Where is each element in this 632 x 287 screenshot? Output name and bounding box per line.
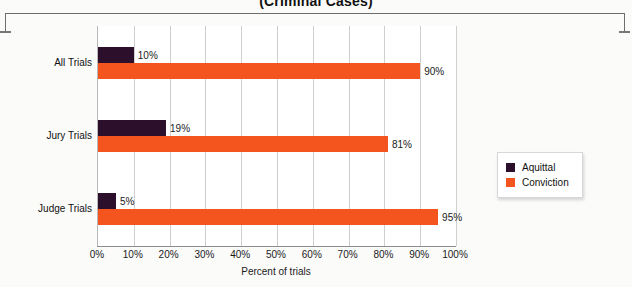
x-tick-label: 0% bbox=[90, 249, 104, 260]
legend-item-conviction[interactable]: Conviction bbox=[506, 175, 576, 190]
x-tick-label: 80% bbox=[373, 249, 393, 260]
legend-item-aquittal[interactable]: Aquittal bbox=[506, 160, 576, 175]
chart-title: (Criminal Cases) bbox=[0, 0, 632, 9]
plot-area: 10%90%19%81%5%95% bbox=[97, 26, 456, 246]
bar-value-label: 10% bbox=[138, 49, 158, 60]
bar-value-label: 81% bbox=[392, 139, 412, 150]
category-label-jury-trials: Jury Trials bbox=[4, 130, 92, 141]
legend-label: Conviction bbox=[522, 177, 569, 188]
x-tick-label: 20% bbox=[159, 249, 179, 260]
x-tick-label: 90% bbox=[409, 249, 429, 260]
x-tick-label: 100% bbox=[442, 249, 468, 260]
bar-aquittal-jury-trials bbox=[98, 120, 166, 136]
page-bracket-right-foot bbox=[619, 31, 630, 33]
bar-value-label: 95% bbox=[442, 212, 462, 223]
bar-aquittal-judge-trials bbox=[98, 193, 116, 209]
x-tick-label: 10% bbox=[123, 249, 143, 260]
x-axis-line bbox=[97, 246, 456, 247]
legend-swatch-icon bbox=[506, 178, 515, 187]
page-bracket-frame bbox=[5, 13, 625, 14]
category-label-judge-trials: Judge Trials bbox=[4, 203, 92, 214]
bar-conviction-jury-trials bbox=[98, 136, 388, 152]
bar-value-label: 19% bbox=[170, 123, 190, 134]
x-tick-label: 30% bbox=[194, 249, 214, 260]
x-axis-title: Percent of trials bbox=[97, 266, 455, 277]
x-tick-label: 60% bbox=[302, 249, 322, 260]
x-tick-label: 40% bbox=[230, 249, 250, 260]
legend-swatch-icon bbox=[506, 163, 515, 172]
x-tick-label: 70% bbox=[338, 249, 358, 260]
bar-value-label: 5% bbox=[120, 196, 134, 207]
x-axis-tick-labels: 0%10%20%30%40%50%60%70%80%90%100% bbox=[97, 249, 455, 263]
bar-conviction-all-trials bbox=[98, 63, 420, 79]
bar-conviction-judge-trials bbox=[98, 209, 438, 225]
category-label-all-trials: All Trials bbox=[4, 57, 92, 68]
bar-value-label: 90% bbox=[424, 65, 444, 76]
chart-legend: AquittalConviction bbox=[497, 152, 583, 198]
category-axis-labels: All TrialsJury TrialsJudge Trials bbox=[0, 26, 92, 246]
x-tick-label: 50% bbox=[266, 249, 286, 260]
page-bracket-right-stem bbox=[624, 13, 625, 33]
bar-aquittal-all-trials bbox=[98, 47, 134, 63]
legend-label: Aquittal bbox=[522, 162, 555, 173]
